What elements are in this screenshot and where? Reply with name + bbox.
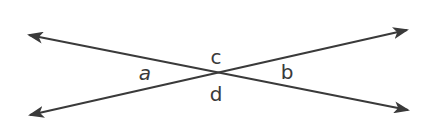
angle-label-b: b	[281, 60, 294, 84]
angle-label-c: c	[211, 45, 222, 69]
angle-label-d: d	[210, 82, 223, 106]
angle-label-a: a	[139, 61, 151, 85]
intersecting-lines-diagram: a c b d	[0, 0, 429, 137]
